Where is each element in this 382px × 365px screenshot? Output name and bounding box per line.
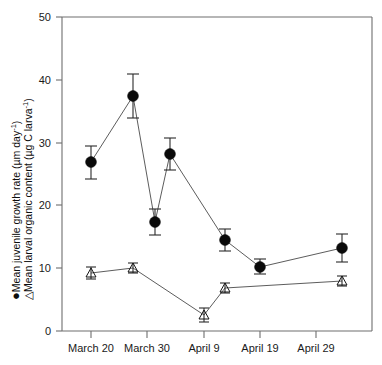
x-tick-label-april-19: April 19 [241, 342, 278, 354]
x-tick-label-march-20: March 20 [68, 342, 114, 354]
y-tick-label-0: 0 [45, 325, 51, 337]
y-tick-label-20: 20 [39, 199, 51, 211]
data-point-circle-4 [220, 235, 231, 246]
chart-background [0, 0, 382, 365]
y-tick-label-30: 30 [39, 137, 51, 149]
x-tick-label-april-29: April 29 [297, 342, 334, 354]
y-axis-title-line2: △Mean larval organic content (µg C larva… [21, 98, 34, 300]
y-tick-label-50: 50 [39, 11, 51, 23]
chart-svg: ●Mean juvenile growth rate (µm day-1) △M… [0, 0, 382, 365]
y-tick-label-40: 40 [39, 74, 51, 86]
data-point-circle-5 [255, 262, 266, 273]
chart-figure: ●Mean juvenile growth rate (µm day-1) △M… [0, 0, 382, 365]
data-point-circle-0 [86, 157, 97, 168]
data-point-circle-1 [128, 91, 139, 102]
y-axis-title-line1: ●Mean juvenile growth rate (µm day-1) [8, 121, 23, 300]
data-point-circle-2 [150, 217, 161, 228]
data-point-circle-6 [337, 243, 348, 254]
x-tick-label-april-9: April 9 [188, 342, 219, 354]
y-tick-label-10: 10 [39, 262, 51, 274]
data-point-circle-3 [165, 149, 176, 160]
x-tick-label-march-30: March 30 [124, 342, 170, 354]
